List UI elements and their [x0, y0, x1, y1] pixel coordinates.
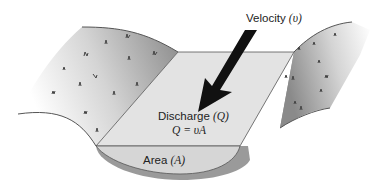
velocity-label: Velocity (υ) — [246, 12, 302, 24]
area-label: Area (A) — [143, 154, 185, 166]
right-bank-shape — [280, 22, 370, 128]
discharge-label: Discharge (Q) — [158, 110, 229, 122]
discharge-equation: Q = υA — [172, 124, 206, 136]
stream-channel-diagram — [0, 0, 380, 186]
